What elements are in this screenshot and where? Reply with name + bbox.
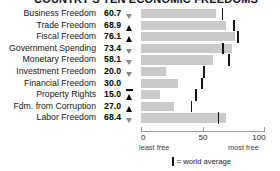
trend-up-icon bbox=[124, 31, 134, 43]
score-bar bbox=[141, 113, 226, 122]
row-label: Property Rights bbox=[0, 89, 96, 101]
legend-label: = world average bbox=[177, 157, 231, 166]
world-average-tick bbox=[195, 89, 197, 101]
world-average-tick bbox=[228, 54, 230, 66]
axis-tick-0-cap bbox=[141, 127, 142, 132]
trend-down-icon bbox=[124, 43, 134, 55]
row-value: 60.7 bbox=[99, 8, 121, 20]
trend-down-icon bbox=[124, 112, 134, 124]
trend-up-icon bbox=[124, 20, 134, 32]
trend-down-icon bbox=[124, 66, 134, 78]
table-row: Financial Freedom30.0 bbox=[0, 78, 280, 90]
axis-tick-label-50: 50 bbox=[195, 133, 211, 142]
score-bar bbox=[141, 9, 216, 18]
axis-tick-100-cap bbox=[264, 127, 265, 132]
page-title: COUNTRY'S TEN ECONOMIC FREEDOMS bbox=[34, 0, 258, 5]
row-label: Labor Freedom bbox=[0, 112, 96, 124]
row-label: Business Freedom bbox=[0, 8, 96, 20]
table-row: Labor Freedom68.4 bbox=[0, 112, 280, 124]
row-value: 68.9 bbox=[99, 20, 121, 32]
axis-tick-50-cap bbox=[203, 127, 204, 132]
trend-down-icon bbox=[124, 54, 134, 66]
trend-up-icon bbox=[124, 89, 134, 101]
world-average-tick bbox=[233, 20, 235, 32]
row-label: Fiscal Freedom bbox=[0, 31, 96, 43]
world-average-tick bbox=[203, 66, 205, 78]
legend: = world average bbox=[172, 155, 231, 167]
world-average-tick bbox=[218, 112, 220, 124]
world-average-tick bbox=[237, 31, 239, 43]
table-row: Property Rights15.0 bbox=[0, 89, 280, 101]
table-row: Investment Freedom20.0 bbox=[0, 66, 280, 78]
row-value: 73.4 bbox=[99, 43, 121, 55]
score-bar bbox=[141, 21, 226, 30]
table-row: Monetary Freedom58.1 bbox=[0, 54, 280, 66]
score-bar bbox=[141, 90, 160, 99]
axis-tick-label-0: 0 bbox=[141, 133, 145, 142]
axis-note-most-free: most free bbox=[228, 143, 259, 152]
score-bar bbox=[141, 102, 174, 111]
score-bar bbox=[141, 32, 235, 41]
score-bar bbox=[141, 79, 178, 88]
row-value: 68.4 bbox=[99, 112, 121, 124]
row-value: 15.0 bbox=[99, 89, 121, 101]
world-average-swatch-icon bbox=[172, 157, 174, 166]
world-average-tick bbox=[222, 43, 224, 55]
axis-note-least-free: least free bbox=[139, 143, 169, 152]
world-average-tick bbox=[191, 101, 193, 113]
trend-up-icon bbox=[124, 101, 134, 113]
row-value: 76.1 bbox=[99, 31, 121, 43]
chart-title-clipped: COUNTRY'S TEN ECONOMIC FREEDOMS bbox=[0, 0, 280, 7]
score-bar bbox=[141, 44, 232, 53]
score-bar bbox=[141, 55, 213, 64]
table-row: Fdm. from Corruption27.0 bbox=[0, 101, 280, 113]
freedom-bar-chart: Business Freedom60.7Trade Freedom68.9Fis… bbox=[0, 8, 280, 128]
x-axis-line bbox=[141, 131, 265, 132]
trend-down-icon bbox=[124, 8, 134, 20]
row-value: 20.0 bbox=[99, 66, 121, 78]
trend-flat-icon bbox=[124, 78, 134, 90]
table-row: Fiscal Freedom76.1 bbox=[0, 31, 280, 43]
axis-tick-label-100: 100 bbox=[251, 133, 267, 142]
table-row: Government Spending73.4 bbox=[0, 43, 280, 55]
row-label: Monetary Freedom bbox=[0, 54, 96, 66]
row-value: 58.1 bbox=[99, 54, 121, 66]
row-value: 27.0 bbox=[99, 101, 121, 113]
row-label: Fdm. from Corruption bbox=[0, 101, 96, 113]
row-label: Financial Freedom bbox=[0, 78, 96, 90]
row-value: 30.0 bbox=[99, 78, 121, 90]
world-average-tick bbox=[201, 78, 203, 90]
row-label: Trade Freedom bbox=[0, 20, 96, 32]
table-row: Trade Freedom68.9 bbox=[0, 20, 280, 32]
score-bar bbox=[141, 67, 166, 76]
table-row: Business Freedom60.7 bbox=[0, 8, 280, 20]
world-average-tick bbox=[222, 8, 224, 20]
row-label: Government Spending bbox=[0, 43, 96, 55]
row-label: Investment Freedom bbox=[0, 66, 96, 78]
